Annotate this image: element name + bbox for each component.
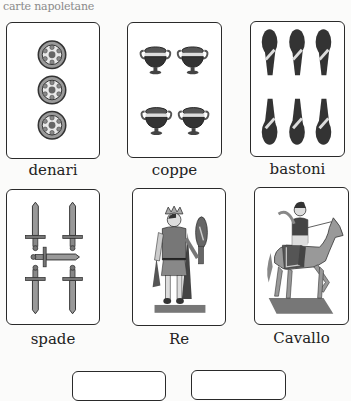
king-figure-icon [133,189,225,325]
card-label-cavallo: Cavallo [254,329,349,347]
card-label-denari: denari [6,161,100,179]
coin-icon [7,23,99,158]
coin [38,112,65,139]
sword [63,202,83,250]
coin [38,76,65,103]
club [289,29,305,75]
card-label-bastoni: bastoni [250,160,345,178]
card-spade [6,189,100,325]
card-partial-left [72,371,166,401]
card-re [132,188,226,326]
club [316,29,332,75]
card-denari [6,22,100,159]
sword-icon [7,190,99,324]
club [262,99,278,145]
club [262,29,278,75]
cup-icon [128,23,221,157]
card-partial-right [191,370,286,400]
card-label-re: Re [132,330,226,348]
sword [26,265,46,313]
card-bastoni [250,21,345,157]
card-coppe [127,22,222,158]
sword [26,202,46,250]
club-icon [251,22,344,156]
cup [141,47,171,74]
club [289,99,305,145]
card-label-spade: spade [6,330,100,348]
cup [142,108,172,135]
card-cavallo [254,187,349,325]
coin [38,41,65,68]
sword [63,265,83,313]
cup [178,47,208,74]
club [316,99,332,145]
card-label-coppe: coppe [127,161,222,179]
page-caption: carte napoletane [3,0,94,13]
cup [179,108,209,135]
horseman-figure-icon [255,188,348,324]
